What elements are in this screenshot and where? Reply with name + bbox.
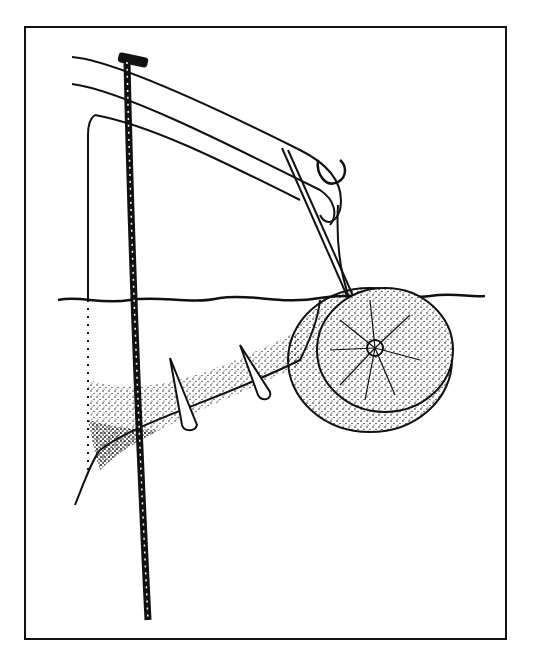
pole: [117, 52, 148, 620]
fender-wheel: [288, 288, 453, 432]
boat-illustration: [0, 0, 544, 661]
